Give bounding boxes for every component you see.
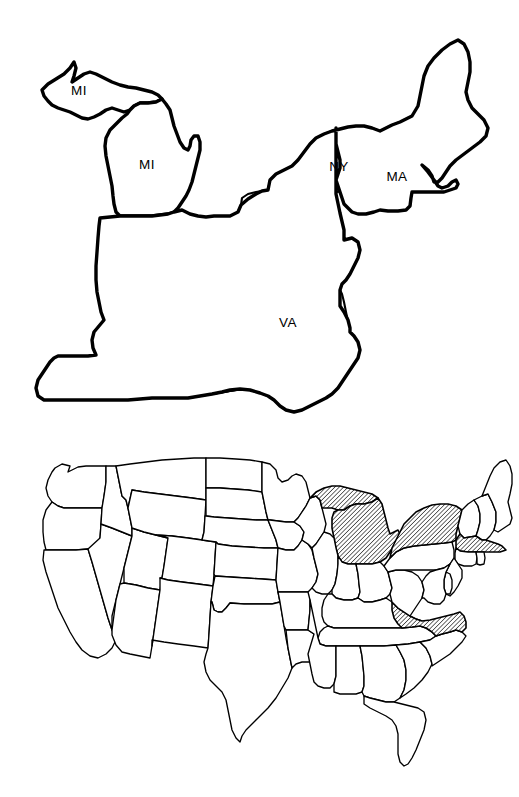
state-oregon: [43, 502, 102, 550]
state-label-ma: MA: [386, 169, 407, 184]
national-states: [43, 458, 512, 766]
state-texas: [204, 602, 292, 742]
regional-exterior-outlines: [36, 40, 488, 412]
regional-map-svg: MI MI NY MA VA: [0, 0, 519, 440]
state-new-mexico: [152, 578, 213, 648]
state-label-va: VA: [279, 315, 297, 330]
state-label-ny: NY: [329, 159, 349, 174]
regional-map-panel: MI MI NY MA VA: [0, 0, 519, 440]
state-georgia: [360, 645, 406, 702]
state-rhode-island: [476, 552, 485, 565]
state-south-dakota: [206, 488, 268, 520]
national-map-svg: [0, 440, 519, 797]
national-map-panel: [0, 440, 519, 797]
state-washington: [46, 464, 106, 508]
state-kansas: [214, 542, 278, 580]
state-alabama: [334, 646, 364, 694]
figure-page: MI MI NY MA VA: [0, 0, 519, 797]
state-florida: [364, 696, 426, 766]
state-label-mi-upper: MI: [71, 83, 87, 98]
state-arizona: [112, 583, 160, 658]
state-label-mi-lower: MI: [139, 157, 155, 172]
state-north-dakota: [206, 458, 262, 492]
